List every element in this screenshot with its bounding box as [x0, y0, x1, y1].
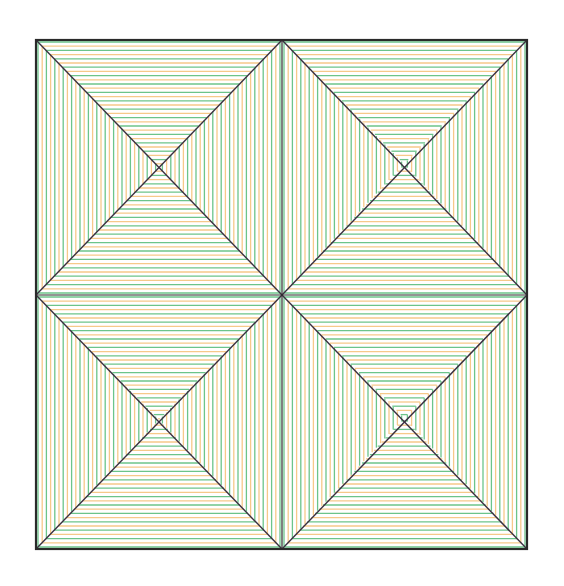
- square-pattern-figure: [0, 0, 564, 586]
